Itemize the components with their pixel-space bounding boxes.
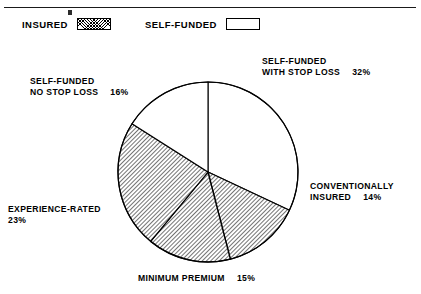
label-conventionally-insured: CONVENTIONALLY INSURED14%	[310, 181, 394, 202]
label-percent: 14%	[363, 192, 381, 202]
label-line-2: WITH STOP LOSS	[262, 67, 340, 77]
pie-chart	[0, 0, 421, 294]
label-line-2: INSURED	[310, 192, 351, 202]
label-line-1: SELF-FUNDED	[30, 76, 129, 87]
label-line-1: MINIMUM PREMIUM	[138, 273, 225, 283]
label-line-2-with-percent: INSURED14%	[310, 192, 394, 203]
label-experience-rated: EXPERIENCE-RATED 23%	[8, 204, 101, 225]
label-line-1: SELF-FUNDED	[262, 56, 370, 67]
label-self-funded-with-stop-loss: SELF-FUNDED WITH STOP LOSS32%	[262, 56, 370, 77]
label-percent: 32%	[352, 67, 370, 77]
chart-area	[0, 0, 421, 294]
label-line-2-with-percent: NO STOP LOSS16%	[30, 87, 129, 98]
label-percent: 16%	[110, 87, 128, 97]
label-percent: 15%	[237, 273, 255, 283]
label-minimum-premium: MINIMUM PREMIUM15%	[138, 273, 255, 284]
label-line-1: CONVENTIONALLY	[310, 181, 394, 192]
label-line-2-with-percent: WITH STOP LOSS32%	[262, 67, 370, 78]
label-line-1: EXPERIENCE-RATED	[8, 204, 101, 215]
label-line-2: NO STOP LOSS	[30, 87, 98, 97]
pie-chart-page: INSURED SELF-FUNDED	[0, 0, 421, 294]
label-line-2: 23%	[8, 215, 101, 226]
label-self-funded-no-stop-loss: SELF-FUNDED NO STOP LOSS16%	[30, 76, 129, 97]
